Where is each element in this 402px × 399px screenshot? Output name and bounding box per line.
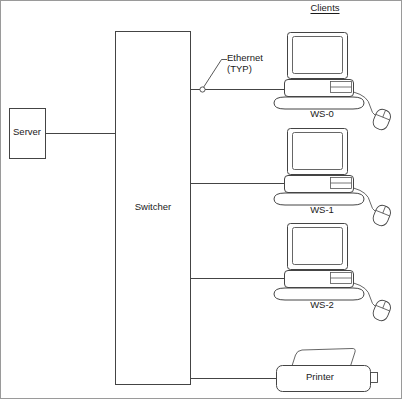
ethernet-callout-dot: [200, 87, 205, 92]
ethernet-annotation-line-1: Ethernet: [227, 52, 263, 63]
workstation-ws0-label: WS-0: [310, 109, 334, 120]
printer-node-label: Printer: [306, 372, 334, 383]
network-diagram-canvas: Clients Server Switcher Ethernet(TYP) WS…: [0, 0, 402, 399]
printer-side-tab: [371, 373, 378, 383]
workstation-ws1-label: WS-1: [310, 205, 334, 216]
workstation-ws2-label: WS-2: [310, 300, 334, 311]
switcher-node-label: Switcher: [135, 202, 171, 213]
clients-group-header: Clients: [310, 3, 339, 14]
ws0-monitor-screen: [293, 37, 343, 74]
ethernet-callout-leader: [204, 60, 227, 88]
printer-graphic[interactable]: [277, 348, 378, 391]
diagram-vector-layer: [0, 0, 402, 399]
ws2-monitor-screen: [293, 228, 343, 265]
ethernet-annotation-line-2: (TYP): [227, 63, 252, 74]
ws1-monitor-screen: [293, 133, 343, 170]
server-node-label: Server: [13, 127, 41, 138]
ethernet-typ-annotation: Ethernet(TYP): [227, 53, 263, 74]
